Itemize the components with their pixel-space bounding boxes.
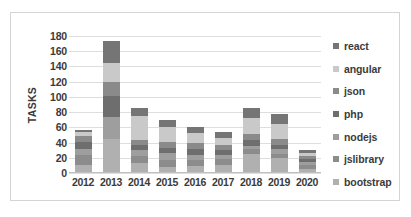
bar-column-2012[interactable] [75, 130, 92, 173]
gridline [69, 36, 321, 37]
x-axis-tick-label: 2020 [296, 176, 318, 188]
bar-segment-php[interactable] [103, 96, 120, 117]
bar-segment-bootstrap[interactable] [271, 158, 288, 173]
bar-segment-bootstrap[interactable] [103, 139, 120, 173]
bar-column-2014[interactable] [131, 108, 148, 173]
x-axis-tick-label: 2016 [184, 176, 206, 188]
bar-column-2019[interactable] [271, 114, 288, 173]
y-axis-tick-label: 120 [50, 76, 67, 88]
bar-segment-angular[interactable] [187, 133, 204, 143]
bar-segment-react[interactable] [187, 127, 204, 134]
bar-column-2016[interactable] [187, 127, 204, 173]
bar-segment-angular[interactable] [215, 138, 232, 145]
y-axis-tick-label: 100 [50, 91, 67, 103]
y-axis-tick-label: 40 [56, 137, 67, 149]
bar-segment-angular[interactable] [103, 63, 120, 83]
y-axis-tick-label: 160 [50, 45, 67, 57]
x-axis-tick-label: 2018 [240, 176, 262, 188]
bar-column-2020[interactable] [299, 150, 316, 173]
legend-item-react[interactable]: react [333, 35, 407, 58]
legend-item-json[interactable]: json [333, 80, 407, 103]
legend-swatch-icon [333, 179, 339, 185]
y-axis-tick-label: 0 [61, 167, 67, 179]
legend-item-label: php [344, 108, 363, 120]
legend-swatch-icon [333, 88, 339, 94]
plot-area [69, 36, 321, 173]
legend-item-angular[interactable]: angular [333, 58, 407, 81]
bar-segment-jslibrary[interactable] [131, 156, 148, 163]
bar-segment-react[interactable] [131, 108, 148, 116]
x-axis-tick-label: 2013 [100, 176, 122, 188]
y-axis-tick-label: 140 [50, 60, 67, 72]
bar-column-2015[interactable] [159, 120, 176, 173]
x-axis-tick-labels: 201220132014201520162017201820192020 [69, 176, 321, 192]
legend-item-label: nodejs [344, 131, 377, 143]
bar-segment-json[interactable] [103, 82, 120, 96]
y-axis-tick-label: 80 [56, 106, 67, 118]
bar-segment-jslibrary[interactable] [75, 155, 92, 166]
bar-segment-php[interactable] [75, 142, 92, 149]
y-axis-tick-label: 20 [56, 152, 67, 164]
x-axis-tick-label: 2014 [128, 176, 150, 188]
bar-segment-react[interactable] [271, 114, 288, 124]
x-axis-tick-label: 2015 [156, 176, 178, 188]
x-axis-baseline [69, 172, 321, 173]
legend-item-bootstrap[interactable]: bootstrap [333, 171, 407, 194]
legend-swatch-icon [333, 156, 339, 162]
bar-segment-angular[interactable] [131, 116, 148, 140]
legend-swatch-icon [333, 66, 339, 72]
bar-segment-bootstrap[interactable] [243, 154, 260, 173]
legend-item-php[interactable]: php [333, 103, 407, 126]
legend-item-label: bootstrap [344, 176, 392, 188]
bar-segment-angular[interactable] [243, 118, 260, 134]
legend-swatch-icon [333, 111, 339, 117]
x-axis-tick-label: 2012 [72, 176, 94, 188]
bar-segment-angular[interactable] [159, 127, 176, 142]
bar-segment-angular[interactable] [271, 124, 288, 138]
x-axis-tick-label: 2017 [212, 176, 234, 188]
chart-container: TASKS 180160140120100806040200 201220132… [10, 12, 400, 201]
bar-column-2013[interactable] [103, 41, 120, 173]
y-axis-tick-label: 60 [56, 121, 67, 133]
bar-segment-nodejs[interactable] [159, 153, 176, 160]
bar-segment-react[interactable] [103, 41, 120, 63]
chart-legend: reactangularjsonphpnodejsjslibrarybootst… [333, 35, 407, 193]
legend-swatch-icon [333, 43, 339, 49]
legend-item-nodejs[interactable]: nodejs [333, 125, 407, 148]
bar-column-2018[interactable] [243, 108, 260, 173]
bar-segment-react[interactable] [159, 120, 176, 127]
legend-swatch-icon [333, 134, 339, 140]
bar-segment-jslibrary[interactable] [159, 160, 176, 167]
bar-segment-react[interactable] [243, 108, 260, 118]
legend-item-label: jslibrary [344, 153, 384, 165]
legend-item-label: angular [344, 63, 381, 75]
y-axis-tick-labels: 180160140120100806040200 [33, 36, 67, 173]
x-axis-tick-label: 2019 [268, 176, 290, 188]
y-axis-tick-label: 180 [50, 30, 67, 42]
legend-item-label: json [344, 85, 365, 97]
legend-item-label: react [344, 40, 369, 52]
bar-segment-nodejs[interactable] [103, 117, 120, 138]
gridline [69, 173, 321, 174]
legend-item-jslibrary[interactable]: jslibrary [333, 148, 407, 171]
bar-column-2017[interactable] [215, 132, 232, 173]
